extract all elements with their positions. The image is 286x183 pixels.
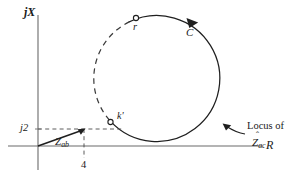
x-tick-label-4: 4 <box>81 160 86 171</box>
circle-direction-label-c: C <box>186 27 193 38</box>
axis-label-jx: jX <box>24 6 35 18</box>
locus-annotation-zac: Zˆac <box>252 137 266 150</box>
zac-subscript: ac <box>258 141 265 150</box>
y-tick-label-j2: j2 <box>20 123 28 134</box>
point-label-k: k' <box>117 111 124 121</box>
zab-subscript: ab <box>61 140 69 149</box>
locus-circle-dashed <box>94 22 129 122</box>
locus-circle-solid <box>111 16 220 142</box>
vector-label-zab: Zˆab <box>55 136 69 149</box>
zac-hat-accent: ˆ <box>256 131 259 140</box>
axis-label-r: R <box>266 139 273 151</box>
locus-annotation-line1: Locus of <box>247 121 284 132</box>
locus-annotation-arrowhead <box>223 124 232 131</box>
point-label-r: r <box>133 22 137 33</box>
point-marker-k <box>108 119 113 124</box>
point-marker-r <box>133 15 138 20</box>
zab-base: Z <box>55 135 61 147</box>
impedance-locus-figure <box>0 0 286 183</box>
